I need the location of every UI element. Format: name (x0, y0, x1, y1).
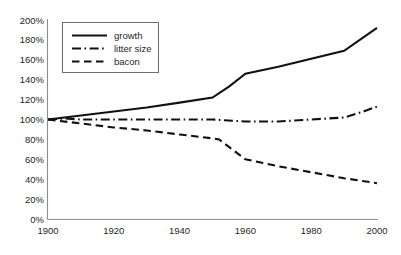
chart-canvas: 200% 180% 160% 140% 120% 100% 80% 60% 40… (0, 0, 401, 255)
x-tick-label: 1920 (103, 225, 124, 236)
y-tick-label: 60% (25, 154, 45, 165)
y-tick-label: 120% (20, 94, 45, 105)
y-tick-label: 0% (30, 214, 44, 225)
y-tick-label: 200% (20, 15, 45, 26)
x-tick-label: 2000 (366, 225, 387, 236)
legend: growth litter size bacon (63, 23, 159, 73)
y-tick-label: 180% (20, 34, 45, 45)
y-tick-label: 20% (25, 194, 45, 205)
x-tick-label: 1900 (37, 225, 58, 236)
x-axis-tick-labels: 1900 1920 1940 1960 1980 2000 (37, 225, 387, 236)
x-tick-label: 1960 (235, 225, 256, 236)
legend-label-litter-size: litter size (114, 43, 151, 54)
y-tick-label: 80% (25, 134, 45, 145)
y-tick-label: 100% (20, 114, 45, 125)
x-tick-label: 1980 (301, 225, 322, 236)
series-line-bacon (48, 120, 377, 184)
y-tick-label: 40% (25, 174, 45, 185)
y-axis-tick-labels: 200% 180% 160% 140% 120% 100% 80% 60% 40… (20, 15, 45, 225)
legend-label-bacon: bacon (114, 56, 140, 67)
legend-label-growth: growth (114, 30, 143, 41)
y-tick-label: 140% (20, 74, 45, 85)
line-chart: 200% 180% 160% 140% 120% 100% 80% 60% 40… (0, 0, 401, 255)
x-tick-label: 1940 (169, 225, 190, 236)
y-tick-label: 160% (20, 54, 45, 65)
